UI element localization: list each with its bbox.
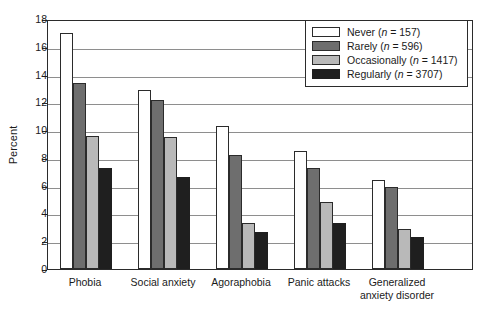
bar [307,168,320,269]
y-axis-tick-label: 18 [17,13,47,25]
bar [177,177,190,269]
bar [411,237,424,269]
gridline [48,160,472,161]
legend-swatch [312,55,340,65]
legend-label: Occasionally (n = 1417) [347,54,458,66]
y-axis-tick-label: 0 [17,263,47,275]
legend-swatch [312,27,340,37]
bar [60,33,73,269]
y-axis-tick-label: 14 [17,69,47,81]
legend-label: Never (n = 157) [347,26,420,38]
bar [229,155,242,269]
gridline [48,132,472,133]
bar [255,232,268,270]
bar [138,90,151,269]
gridline [48,104,472,105]
bar [320,202,333,269]
bar [216,126,229,269]
bar [164,137,177,269]
bar [398,229,411,269]
x-axis-category-label-line: Generalized [342,276,452,289]
bar [99,168,112,269]
legend: Never (n = 157)Rarely (n = 596)Occasiona… [305,20,468,87]
y-axis-title: Percent [7,20,21,270]
legend-label: Rarely (n = 596) [347,40,423,52]
bar [86,136,99,269]
x-axis-category-label: Generalizedanxiety disorder [342,276,452,302]
bar-chart-figure: Percent PhobiaSocial anxietyAgoraphobiaP… [0,0,495,318]
legend-item: Never (n = 157) [312,25,461,39]
y-axis-tick-label: 6 [17,180,47,192]
y-axis-tick-label: 2 [17,235,47,247]
bar [242,223,255,269]
y-axis-tick-label: 4 [17,207,47,219]
legend-item: Rarely (n = 596) [312,39,461,53]
bar [333,223,346,269]
legend-item: Occasionally (n = 1417) [312,53,461,67]
bar [294,151,307,269]
legend-swatch [312,69,340,79]
y-axis-tick-label: 8 [17,152,47,164]
bar [151,100,164,269]
bar [385,187,398,269]
legend-swatch [312,41,340,51]
bar [73,83,86,269]
legend-label: Regularly (n = 3707) [347,68,442,80]
bar [372,180,385,269]
y-axis-tick-label: 16 [17,41,47,53]
legend-item: Regularly (n = 3707) [312,67,461,81]
x-axis-category-label-line: anxiety disorder [342,289,452,302]
y-axis-tick-label: 10 [17,124,47,136]
y-axis-tick-label: 12 [17,96,47,108]
